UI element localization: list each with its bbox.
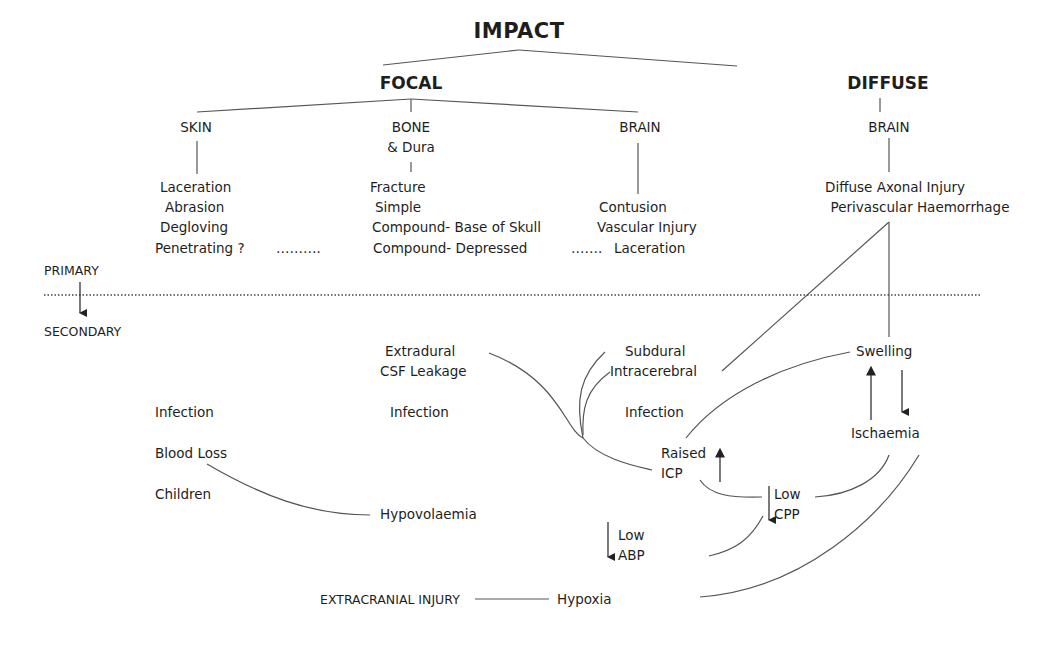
abp-label: ABP <box>618 546 645 565</box>
list-item: Compound- Depressed <box>373 239 527 258</box>
impact-to-diffuse-line <box>519 50 737 66</box>
raised-label: Raised <box>661 444 706 463</box>
low-cpp-label: Low <box>774 485 801 504</box>
list-item: Diffuse Axonal Injury <box>825 178 965 197</box>
children: Children <box>155 485 211 504</box>
swelling: Swelling <box>856 342 912 361</box>
list-item: Laceration <box>614 239 685 258</box>
list-item: Fracture <box>370 178 425 197</box>
ellipsis: ………. <box>276 239 321 258</box>
list-item: Perivascular Haemorrhage <box>831 198 1010 217</box>
focal-to-skin-line <box>197 99 411 112</box>
extracranial-injury: EXTRACRANIAL INJURY <box>320 590 460 609</box>
secondary-label: SECONDARY <box>44 322 121 341</box>
connector-lines <box>0 0 1060 645</box>
bone-heading: BONE <box>392 118 430 137</box>
brain-infection: Infection <box>625 403 684 422</box>
hypovolaemia: Hypovolaemia <box>380 505 477 524</box>
list-item: Penetrating ? <box>155 239 245 258</box>
hypoxia: Hypoxia <box>557 590 612 609</box>
skin-infection: Infection <box>155 403 214 422</box>
dura-heading: & Dura <box>387 138 435 157</box>
impact-title: IMPACT <box>473 22 564 41</box>
focal-brain-heading: BRAIN <box>619 118 660 137</box>
skin-heading: SKIN <box>180 118 212 137</box>
list-item: Abrasion <box>165 198 224 217</box>
blood-loss: Blood Loss <box>155 444 227 463</box>
list-item: Vascular Injury <box>597 218 697 237</box>
list-item: Contusion <box>599 198 667 217</box>
intracerebral: Intracerebral <box>610 362 697 381</box>
csf-leakage: CSF Leakage <box>380 362 467 381</box>
focal-to-brain-line <box>411 99 638 112</box>
extradural: Extradural <box>385 342 455 361</box>
impact-to-focal-line <box>383 50 519 65</box>
low-abp-label: Low <box>618 526 645 545</box>
list-item: Degloving <box>160 218 228 237</box>
ellipsis: ……. <box>571 239 602 258</box>
diffuse-heading: DIFFUSE <box>847 74 928 93</box>
primary-label: PRIMARY <box>44 261 99 280</box>
cpp-label: CPP <box>774 505 800 524</box>
list-item: Simple <box>375 198 421 217</box>
focal-heading: FOCAL <box>380 74 443 93</box>
bone-infection: Infection <box>390 403 449 422</box>
list-item: Laceration <box>160 178 231 197</box>
diffuse-brain-heading: BRAIN <box>868 118 909 137</box>
ischaemia: Ischaemia <box>851 424 920 443</box>
list-item: Compound- Base of Skull <box>372 218 541 237</box>
subdural: Subdural <box>625 342 685 361</box>
icp-label: ICP <box>661 464 683 483</box>
